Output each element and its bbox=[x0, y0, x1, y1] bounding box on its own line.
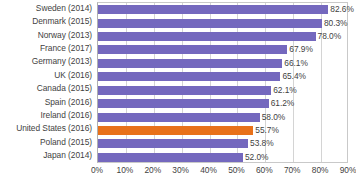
plot-area: 82.6%80.3%78.0%67.9%66.1%65.4%62.1%61.2%… bbox=[97, 2, 348, 163]
category-axis-label: Sweden (2014) bbox=[0, 4, 92, 13]
bar-value-label: 67.9% bbox=[289, 44, 313, 54]
value-axis-tick-label: 0% bbox=[91, 165, 103, 175]
value-axis-tick-label: 20% bbox=[144, 165, 161, 175]
bar[interactable] bbox=[98, 139, 248, 148]
category-axis-label: Japan (2014) bbox=[0, 151, 92, 160]
category-axis-label: Poland (2015) bbox=[0, 138, 92, 147]
bar[interactable] bbox=[98, 32, 316, 41]
bar-row[interactable]: 67.9% bbox=[98, 45, 349, 54]
value-axis-tick-label: 70% bbox=[284, 165, 301, 175]
bar-value-label: 55.7% bbox=[255, 125, 279, 135]
bar[interactable] bbox=[98, 19, 322, 28]
value-axis-tick-label: 90% bbox=[340, 165, 356, 175]
bar[interactable] bbox=[98, 45, 287, 54]
bar-row[interactable]: 66.1% bbox=[98, 59, 349, 68]
bar[interactable] bbox=[98, 72, 280, 81]
bar-row[interactable]: 52.0% bbox=[98, 153, 349, 162]
bar-value-label: 53.8% bbox=[250, 138, 274, 148]
bar-value-label: 78.0% bbox=[318, 31, 342, 41]
value-axis-tick-label: 10% bbox=[117, 165, 134, 175]
bar-row[interactable]: 53.8% bbox=[98, 139, 349, 148]
bar[interactable] bbox=[98, 113, 260, 122]
bar-value-label: 82.6% bbox=[330, 4, 354, 14]
value-axis-tick-label: 60% bbox=[256, 165, 273, 175]
bar-value-label: 52.0% bbox=[245, 152, 269, 162]
category-axis-label: Canada (2015) bbox=[0, 84, 92, 93]
bar-row[interactable]: 65.4% bbox=[98, 72, 349, 81]
category-axis: Sweden (2014) Denmark (2015) Norway (201… bbox=[0, 2, 94, 163]
category-axis-label: Denmark (2015) bbox=[0, 17, 92, 26]
bar-value-label: 58.0% bbox=[262, 112, 286, 122]
bar[interactable] bbox=[98, 153, 243, 162]
bar-row[interactable]: 55.7% bbox=[98, 126, 349, 135]
bar-value-label: 65.4% bbox=[282, 71, 306, 81]
category-axis-label: Germany (2013) bbox=[0, 57, 92, 66]
category-axis-label: Ireland (2016) bbox=[0, 111, 92, 120]
bar-row[interactable]: 80.3% bbox=[98, 19, 349, 28]
bar-chart: Sweden (2014) Denmark (2015) Norway (201… bbox=[0, 0, 356, 183]
bar-value-label: 62.1% bbox=[273, 85, 297, 95]
category-axis-label: Norway (2013) bbox=[0, 31, 92, 40]
bar-row[interactable]: 82.6% bbox=[98, 5, 349, 14]
value-axis: 0%10%20%30%40%50%60%70%80%90% bbox=[97, 165, 348, 179]
bar-row[interactable]: 78.0% bbox=[98, 32, 349, 41]
value-axis-tick-label: 50% bbox=[228, 165, 245, 175]
bar-value-label: 66.1% bbox=[284, 58, 308, 68]
bar-value-label: 61.2% bbox=[271, 98, 295, 108]
bar[interactable] bbox=[98, 126, 253, 135]
bar[interactable] bbox=[98, 99, 269, 108]
value-axis-tick-label: 80% bbox=[312, 165, 329, 175]
category-axis-label: Spain (2016) bbox=[0, 98, 92, 107]
bar[interactable] bbox=[98, 59, 282, 68]
bar-row[interactable]: 58.0% bbox=[98, 113, 349, 122]
category-axis-label: United States (2016) bbox=[0, 124, 92, 133]
bar-row[interactable]: 62.1% bbox=[98, 86, 349, 95]
bar-row[interactable]: 61.2% bbox=[98, 99, 349, 108]
category-axis-label: UK (2016) bbox=[0, 71, 92, 80]
bar-value-label: 80.3% bbox=[324, 18, 348, 28]
bar[interactable] bbox=[98, 5, 328, 14]
value-axis-tick-label: 40% bbox=[200, 165, 217, 175]
category-axis-label: France (2017) bbox=[0, 44, 92, 53]
bar[interactable] bbox=[98, 86, 271, 95]
value-axis-tick-label: 30% bbox=[172, 165, 189, 175]
